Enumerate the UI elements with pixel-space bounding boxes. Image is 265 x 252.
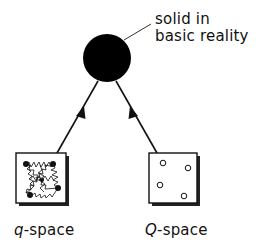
q-space-text: -space <box>24 221 75 239</box>
Q-symbol: Q <box>145 221 157 239</box>
q-space-box <box>16 153 69 206</box>
label-leader-line <box>124 24 151 40</box>
root-label-line1: solid in <box>155 11 249 28</box>
Q-space-label: Q-space <box>145 222 208 239</box>
Q-space-box <box>149 153 200 206</box>
root-label: solid in basic reality <box>155 11 249 45</box>
solid-node <box>83 34 131 82</box>
edge-left <box>57 81 98 153</box>
root-label-line2: basic reality <box>155 28 249 45</box>
edge-right <box>116 81 157 153</box>
q-space-label: q-space <box>14 222 74 239</box>
q-symbol: q <box>14 221 24 239</box>
Q-space-text: -space <box>157 221 208 239</box>
